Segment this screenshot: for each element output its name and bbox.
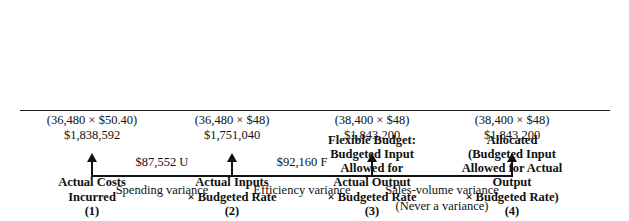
sales-volume-variance-label-line-1: Sales-volume variance (342, 182, 542, 198)
sales-volume-variance-label: Sales-volume variance (Never a variance) (342, 182, 542, 214)
column-4-computation: (38,400 × $48) (442, 113, 582, 128)
column-values-4: (38,400 × $48) $1,843,200 (442, 113, 582, 143)
sales-volume-variance-connector (0, 153, 629, 179)
column-3-total: $1,843,200 (302, 128, 442, 143)
connector-3-baseline (372, 175, 512, 177)
connector-3-left-stem (371, 160, 373, 177)
column-values-1: (36,480 × $50.40) $1,838,592 (22, 113, 162, 143)
column-1-total: $1,838,592 (22, 128, 162, 143)
column-2-total: $1,751,040 (162, 128, 302, 143)
horizontal-divider-rule (20, 110, 610, 111)
column-values-2: (36,480 × $48) $1,751,040 (162, 113, 302, 143)
column-header-2-number: (2) (162, 204, 302, 218)
column-2-computation: (36,480 × $48) (162, 113, 302, 128)
sales-volume-variance-label-line-2: (Never a variance) (342, 198, 542, 214)
column-1-computation: (36,480 × $50.40) (22, 113, 162, 128)
arrow-up-icon (507, 153, 517, 162)
variance-analysis-diagram: Actual Costs Incurred (1) Actual Inputs … (0, 0, 629, 221)
arrow-up-icon (367, 153, 377, 162)
connector-3-right-stem (511, 160, 513, 177)
column-values-3: (38,400 × $48) $1,843,200 (302, 113, 442, 143)
column-4-total: $1,843,200 (442, 128, 582, 143)
column-header-1-number: (1) (22, 204, 162, 218)
column-3-computation: (38,400 × $48) (302, 113, 442, 128)
